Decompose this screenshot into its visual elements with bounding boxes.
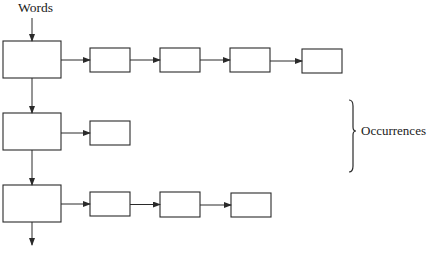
diagram-graphics: [0, 0, 430, 257]
occurrence-node: [231, 193, 271, 217]
occurrences-brace-icon: [349, 100, 356, 172]
occurrence-node: [160, 192, 200, 217]
occurrence-node: [160, 48, 200, 72]
word-node: [3, 185, 61, 222]
diagram-canvas: Words Occurrences: [0, 0, 430, 257]
link-arrows: [32, 18, 302, 245]
occurrence-node: [90, 192, 130, 216]
occurrence-node: [90, 48, 130, 72]
occurrence-node: [230, 48, 270, 72]
occurrence-node: [302, 49, 342, 73]
occurrence-node: [90, 121, 130, 145]
node-boxes: [3, 41, 342, 222]
word-node: [3, 41, 61, 78]
word-node: [3, 113, 61, 150]
